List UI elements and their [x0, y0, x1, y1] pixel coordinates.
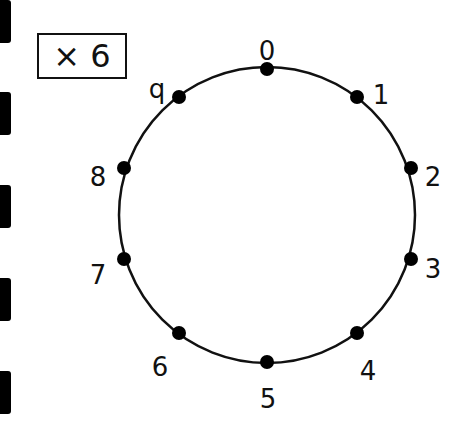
point-label-q: q: [149, 74, 166, 104]
circle-points: 012345678q: [90, 36, 442, 414]
point-label-6: 6: [152, 352, 169, 382]
point-dot-8: [117, 161, 131, 175]
point-dot-2: [404, 161, 418, 175]
point-dot-q: [172, 90, 186, 104]
point-label-0: 0: [259, 36, 276, 66]
point-dot-7: [117, 252, 131, 266]
point-dot-4: [350, 326, 364, 340]
point-dot-1: [350, 90, 364, 104]
point-dot-6: [172, 326, 186, 340]
circle-ring: [119, 67, 415, 363]
point-label-5: 5: [260, 384, 277, 414]
point-label-1: 1: [373, 80, 390, 110]
modular-circle-diagram: 012345678q: [0, 0, 472, 428]
point-label-8: 8: [90, 162, 107, 192]
point-label-3: 3: [425, 254, 442, 284]
point-label-4: 4: [360, 356, 377, 386]
point-dot-5: [260, 355, 274, 369]
point-label-2: 2: [425, 162, 442, 192]
point-label-7: 7: [90, 260, 107, 290]
point-dot-3: [404, 252, 418, 266]
